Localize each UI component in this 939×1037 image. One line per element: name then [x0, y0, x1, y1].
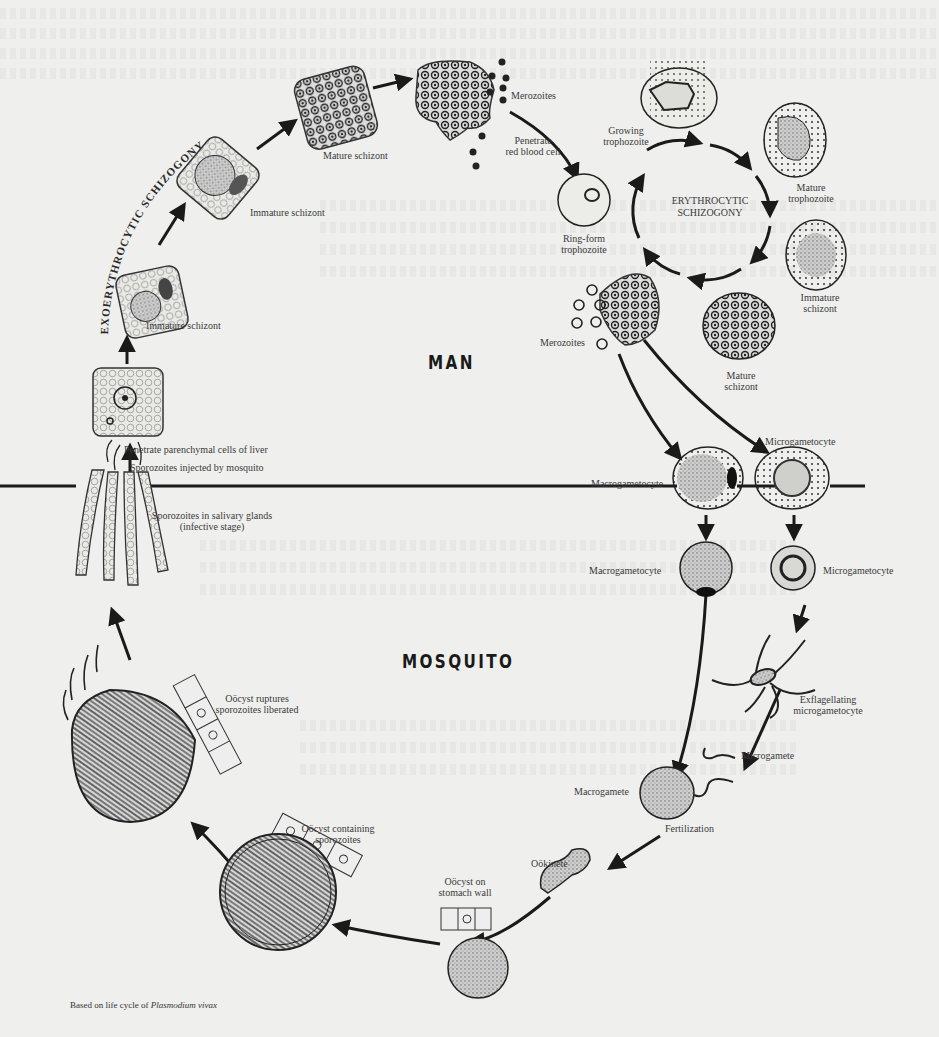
immature-schizont-rbc: [786, 220, 846, 290]
macrogametocyte-mosquito: [680, 542, 732, 597]
caption-prefix: Based on life cycle of: [70, 1000, 151, 1010]
microgametocyte-man: [755, 447, 829, 509]
label-growing-troph-line2: trophozoite: [590, 136, 662, 147]
label-immature-schizont-rbc-line1: Immature: [790, 292, 850, 303]
label-mature-schizont-liver: Mature schizont: [323, 150, 388, 161]
label-salivary-line1: Sporozoites in salivary glands: [142, 510, 282, 521]
mature-schizont-liver: [292, 64, 380, 152]
ring-form-trophozoite: [558, 174, 610, 226]
label-salivary-line2: (infective stage): [142, 521, 282, 532]
label-immature-schizont-2: Immature schizont: [250, 207, 325, 218]
label-penetrate-liver: Penetrate parenchymal cells of liver: [124, 444, 268, 455]
figure-caption: Based on life cycle of Plasmodium vivax: [70, 1000, 217, 1010]
label-sporozoites-salivary: Sporozoites in salivary glands (infectiv…: [142, 510, 282, 532]
mature-schizont-rbc: [703, 293, 775, 359]
label-growing-trophozoite: Growing trophozoite: [590, 125, 662, 147]
label-macrogametocyte-mosquito: Macrogametocyte: [589, 565, 661, 576]
label-macrogamete: Macrogamete: [574, 786, 629, 797]
macrogamete: [640, 767, 733, 819]
oocyst-rupturing: [63, 645, 241, 822]
label-ookinete: Oökinete: [531, 858, 568, 869]
region-label-mosquito: MOSQUITO: [402, 650, 514, 672]
mature-trophozoite: [764, 103, 826, 177]
erythrocytic-title-line2: SCHIZOGONY: [655, 207, 765, 219]
label-mature-schizont-rbc-line2: schizont: [713, 381, 769, 392]
label-ring-form-trophozoite: Ring-form trophozoite: [548, 233, 620, 255]
microgamete: [704, 748, 735, 758]
liver-cell-penetrated: [93, 368, 163, 436]
growing-trophozoite: [641, 60, 717, 128]
label-penetrate-rbc-line1: Penetrate: [488, 135, 578, 146]
label-macrogametocyte-man: Macrogametocyte: [591, 478, 663, 489]
label-exflagellating-microgametocyte: Exflagellating microgametocyte: [778, 694, 878, 716]
label-mature-schizont-rbc-line1: Mature: [713, 370, 769, 381]
gametocyte-arrows: [112, 340, 805, 944]
label-immature-schizont-rbc-line2: schizont: [790, 303, 850, 314]
label-oocyst-wall-line1: Oöcyst on: [425, 876, 505, 887]
label-penetrate-rbc-line2: red blood cell: [488, 146, 578, 157]
label-merozoites-rbc: Merozoites: [540, 337, 585, 348]
label-oocyst-ruptures: Oöcyst ruptures sporozoites liberated: [207, 693, 307, 715]
label-fertilization: Fertilization: [665, 823, 714, 834]
oocyst-on-stomach-wall: [441, 908, 508, 998]
label-oocyst-ruptures-line2: sporozoites liberated: [207, 704, 307, 715]
label-immature-schizont-1: Immature schizont: [146, 320, 221, 331]
erythrocytic-title-line1: ERYTHROCYTIC: [655, 195, 765, 207]
ookinete: [541, 849, 590, 893]
label-growing-troph-line1: Growing: [590, 125, 662, 136]
label-oocyst-containing-sporozoites: Oöcyst containing sporozoites: [283, 823, 393, 845]
label-microgamete: Microgamete: [741, 750, 794, 761]
label-penetrate-rbc: Penetrate red blood cell: [488, 135, 578, 157]
label-exflag-line2: microgametocyte: [778, 705, 878, 716]
macrogametocyte-man: [673, 447, 743, 509]
bursting-rbc-schizont: [572, 274, 659, 349]
label-mature-troph-line1: Mature: [775, 182, 847, 193]
label-mature-trophozoite: Mature trophozoite: [775, 182, 847, 204]
erythrocytic-cycle-title: ERYTHROCYTIC SCHIZOGONY: [655, 195, 765, 219]
label-mature-schizont-rbc: Mature schizont: [713, 370, 769, 392]
label-sporozoites-injected-visible: Sporozoites injected by mosquito: [130, 462, 264, 473]
label-immature-schizont-rbc: Immature schizont: [790, 292, 850, 314]
label-oocyst-stomach-wall: Oöcyst on stomach wall: [425, 876, 505, 898]
microgametocyte-mosquito: [771, 546, 815, 590]
label-oocyst-containing-line1: Oöcyst containing: [283, 823, 393, 834]
label-ring-form-line1: Ring-form: [548, 233, 620, 244]
label-ring-form-line2: trophozoite: [548, 244, 620, 255]
region-label-man: MAN: [428, 351, 475, 373]
label-merozoites-liver: Merozoites: [511, 90, 556, 101]
caption-species: Plasmodium vivax: [151, 1000, 217, 1010]
label-microgametocyte-man: Microgametocyte: [765, 436, 836, 447]
label-oocyst-containing-line2: sporozoites: [283, 834, 393, 845]
label-exflag-line1: Exflagellating: [778, 694, 878, 705]
label-oocyst-ruptures-line1: Oöcyst ruptures: [207, 693, 307, 704]
label-oocyst-wall-line2: stomach wall: [425, 887, 505, 898]
label-microgametocyte-mosquito: Microgametocyte: [823, 565, 894, 576]
label-mature-troph-line2: trophozoite: [775, 193, 847, 204]
